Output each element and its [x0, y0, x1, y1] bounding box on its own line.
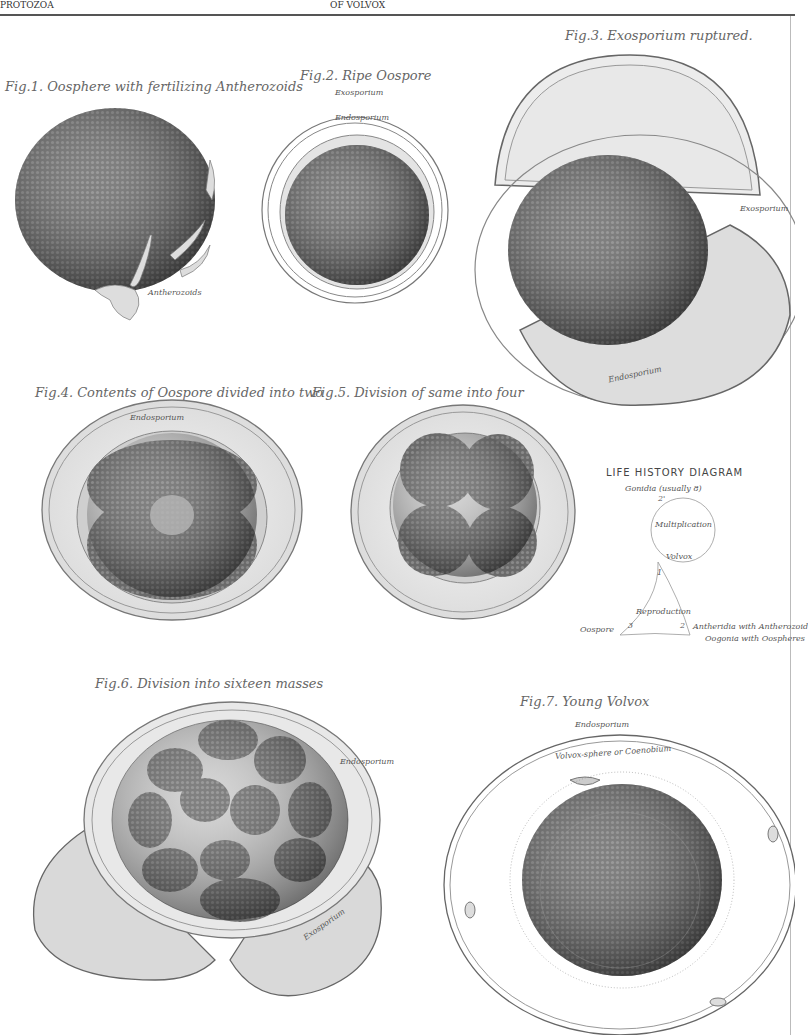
lhd-num3: 3: [628, 621, 633, 630]
fig7-caption: Fig.7. Young Volvox: [520, 694, 649, 709]
fig5-divided-into-four: [351, 405, 575, 619]
fig2-label-exosporium: Exosporium: [335, 88, 383, 97]
fig2-label-endosporium: Endosporium: [335, 113, 389, 122]
fig4-divided-into-two: [42, 400, 302, 620]
lhd-reproduction: Reproduction: [636, 607, 691, 616]
fig3-caption: Fig.3. Exosporium ruptured.: [565, 28, 753, 43]
fig1-label-antherozoids: Antherozoids: [148, 288, 202, 297]
fig2-caption: Fig.2. Ripe Oospore: [300, 68, 431, 83]
lhd-oogonia: Oogonia with Oospheres: [705, 634, 805, 643]
lhd-volvox: Volvox: [666, 552, 692, 561]
fig2-ripe-oospore: [262, 117, 448, 303]
lhd-multiplication: Multiplication: [655, 520, 712, 529]
lhd-circle-num: 2': [658, 494, 665, 503]
fig6-sixteen-masses: [34, 702, 382, 996]
lhd-num2: 2: [680, 621, 685, 630]
fig7-young-volvox: [444, 735, 795, 1035]
fig6-label-endosporium: Endosporium: [340, 757, 394, 766]
lhd-num1: 1: [657, 568, 662, 577]
fig4-caption: Fig.4. Contents of Oospore divided into …: [35, 385, 323, 400]
fig3-exosporium-ruptured: [475, 55, 795, 405]
fig3-label-exosporium: Exosporium: [740, 204, 788, 213]
lhd-gonidia: Gonidia (usually 8): [625, 484, 702, 493]
life-history-title: LIFE HISTORY DIAGRAM: [606, 467, 743, 478]
fig6-caption: Fig.6. Division into sixteen masses: [95, 676, 323, 691]
fig4-label-endosporium: Endosporium: [130, 413, 184, 422]
fig1-caption: Fig.1. Oosphere with fertilizing Anthero…: [5, 79, 303, 94]
fig5-caption: Fig.5. Division of same into four: [312, 385, 524, 400]
fig7-label-endosporium: Endosporium: [575, 720, 629, 729]
lhd-antheridia: Antheridia with Antherozoid: [693, 622, 808, 631]
lhd-oospore: Oospore: [580, 625, 614, 634]
